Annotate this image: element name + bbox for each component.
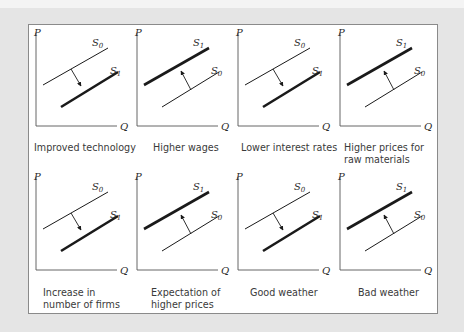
supply-curve-s1	[144, 48, 209, 85]
caption-higher-wages: Higher wages	[153, 142, 219, 154]
supply-curve-s1	[61, 72, 118, 107]
axis-label-q: Q	[120, 121, 128, 132]
caption-lower-interest-rates: Lower interest rates	[241, 142, 337, 154]
label-s0: S0	[294, 37, 306, 50]
caption-improved-technology: Improved technology	[34, 142, 136, 154]
caption-higher-prices-l1: Higher prices for	[344, 142, 424, 154]
shift-arrow	[181, 215, 191, 234]
shift-arrow	[71, 69, 81, 86]
label-s0: S0	[294, 181, 306, 194]
label-s0: S0	[92, 181, 104, 194]
axis-label-p: P	[134, 27, 142, 38]
caption-increase-firms-l1: Increase in	[43, 287, 95, 299]
supply-shift-diagrams: PQS0S1PQS1S0PQS0S1PQS1S0PQS0S1PQS1S0PQS0…	[0, 0, 464, 332]
supply-curve-s0	[43, 192, 108, 229]
supply-curve-s0	[245, 48, 310, 85]
label-s1: S1	[193, 181, 204, 194]
shift-arrow	[181, 71, 191, 90]
supply-curve-s1	[347, 192, 412, 229]
shift-arrow	[273, 69, 283, 86]
supply-curve-s1	[263, 72, 320, 107]
axis-label-p: P	[33, 171, 41, 182]
caption-higher-prices-l2: raw materials	[344, 154, 410, 166]
axis-label-q: Q	[424, 121, 432, 132]
caption-increase-firms-l2: number of firms	[43, 299, 120, 311]
shift-arrow	[71, 213, 81, 230]
caption-good-weather: Good weather	[250, 287, 318, 299]
supply-curve-s1	[144, 192, 209, 229]
caption-bad-weather: Bad weather	[358, 287, 419, 299]
label-s1: S1	[396, 181, 407, 194]
supply-curve-s1	[263, 216, 320, 251]
axis-label-p: P	[235, 27, 243, 38]
supply-curve-s0	[43, 48, 108, 85]
axis-label-q: Q	[221, 265, 229, 276]
axis-label-q: Q	[424, 265, 432, 276]
axis-label-p: P	[33, 27, 41, 38]
supply-curve-s1	[61, 216, 118, 251]
axis-label-p: P	[134, 171, 142, 182]
label-s1: S1	[193, 37, 204, 50]
supply-curve-s1	[347, 48, 412, 85]
supply-curve-s0	[245, 192, 310, 229]
axis-label-p: P	[337, 171, 345, 182]
caption-expectation-l2: higher prices	[151, 299, 214, 311]
axis-label-p: P	[235, 171, 243, 182]
axis-label-q: Q	[120, 265, 128, 276]
label-s0: S0	[92, 37, 104, 50]
axis-label-p: P	[337, 27, 345, 38]
shift-arrow	[384, 71, 394, 90]
shift-arrow	[384, 215, 394, 234]
shift-arrow	[273, 213, 283, 230]
caption-expectation-l1: Expectation of	[151, 287, 220, 299]
label-s1: S1	[396, 37, 407, 50]
axis-label-q: Q	[322, 265, 330, 276]
axis-label-q: Q	[221, 121, 229, 132]
axis-label-q: Q	[322, 121, 330, 132]
